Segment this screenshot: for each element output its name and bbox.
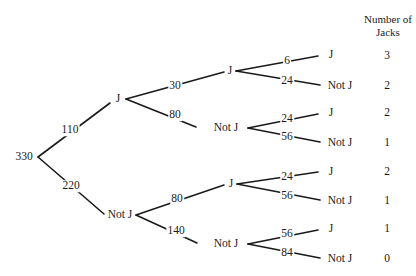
level2-count-jj: 30: [168, 80, 182, 92]
branch-jj-to-j: [236, 56, 318, 71]
column-header-line1: Number of: [364, 13, 412, 26]
level2-count-notjnotj: 140: [166, 225, 185, 237]
level2-node-jnotj: Not J: [213, 122, 240, 134]
tree-diagram: Number of Jacks 330 110 J 220 Not J 30 J…: [0, 0, 416, 276]
level3-count-1: 6: [283, 55, 291, 67]
level3-count-6: 56: [280, 190, 294, 202]
level3-count-2: 24: [280, 75, 294, 87]
jacks-count-4: 1: [384, 137, 390, 149]
level3-node-4: Not J: [327, 137, 354, 149]
level1-count-notj: 220: [61, 180, 80, 192]
branch-notjj-to-notj: [237, 184, 320, 200]
level1-node-j: J: [115, 93, 121, 105]
branch-j-to-notj: [126, 99, 196, 127]
jacks-count-1: 3: [384, 50, 390, 62]
level1-node-notj: Not J: [107, 209, 134, 221]
jacks-count-3: 2: [384, 107, 390, 119]
level2-node-notjj: J: [228, 178, 234, 190]
jacks-count-5: 2: [384, 166, 390, 178]
column-header: Number of Jacks: [364, 13, 412, 39]
jacks-count-2: 2: [384, 80, 390, 92]
tree-branches: [0, 0, 416, 276]
level3-count-7: 56: [280, 228, 294, 240]
branch-jj-to-notj: [236, 71, 320, 85]
jacks-count-8: 0: [384, 253, 390, 265]
level3-node-5: J: [328, 166, 334, 178]
level3-count-5: 24: [280, 171, 294, 183]
level3-count-8: 84: [280, 247, 294, 259]
root-count: 330: [14, 151, 33, 163]
level3-node-2: Not J: [327, 80, 354, 92]
level3-count-3: 24: [280, 113, 294, 125]
level2-count-notjj: 80: [170, 193, 184, 205]
level3-count-4: 56: [280, 131, 294, 143]
level3-node-3: J: [328, 107, 334, 119]
level3-node-7: J: [328, 223, 334, 235]
level1-count-j: 110: [61, 124, 80, 136]
level2-node-notjnotj: Not J: [213, 238, 240, 250]
column-header-line2: Jacks: [364, 26, 412, 39]
level3-node-1: J: [328, 49, 334, 61]
jacks-count-7: 1: [384, 223, 390, 235]
jacks-count-6: 1: [384, 195, 390, 207]
branch-notjj-to-j: [237, 172, 318, 184]
level3-node-8: Not J: [327, 253, 354, 265]
level3-node-6: Not J: [327, 195, 354, 207]
level2-count-jnotj: 80: [168, 109, 182, 121]
level2-node-jj: J: [227, 65, 233, 77]
